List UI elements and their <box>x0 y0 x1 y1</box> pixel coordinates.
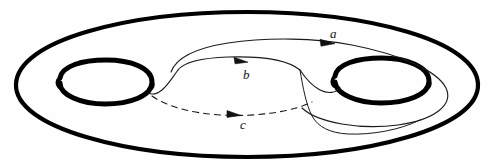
curve-c-group <box>152 96 312 117</box>
curve-label-a: a <box>330 27 337 40</box>
curve-a-path <box>171 39 448 127</box>
curve-b-group <box>178 57 300 70</box>
outer-boundary-group <box>16 12 478 157</box>
outer-boundary-outline <box>16 12 478 157</box>
left-hole-outline <box>60 60 152 104</box>
curve-label-c: c <box>240 118 246 131</box>
right-hole-outline <box>335 58 429 103</box>
left-hole-group <box>57 60 153 104</box>
curve-b-arrowhead <box>234 57 248 64</box>
curve-label-b: b <box>243 68 250 81</box>
curve-c-arrowhead <box>227 111 241 118</box>
surface-diagram-svg <box>0 0 494 168</box>
curve-a-group <box>171 39 448 127</box>
genus-two-surface-figure: a b c <box>0 0 494 168</box>
